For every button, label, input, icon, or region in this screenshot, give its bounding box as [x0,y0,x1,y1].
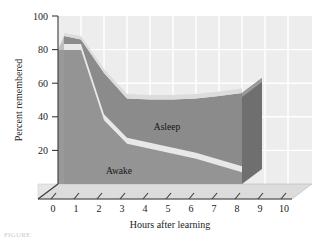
x-tick-label-8: 8 [235,203,240,214]
memory-retention-area-chart: 100 80 60 40 20 0 1 2 3 4 5 6 7 8 9 10 P… [0,0,333,238]
x-tick-label-2: 2 [97,203,102,214]
x-tick-label-5: 5 [166,203,171,214]
y-tick-label-100: 100 [33,11,48,22]
x-tick-label-1: 1 [74,203,79,214]
x-tick-label-6: 6 [189,203,194,214]
left-wall-shadow [58,36,64,184]
x-tick-label-0: 0 [51,203,56,214]
x-tick-label-9: 9 [258,203,263,214]
x-tick-label-7: 7 [212,203,217,214]
x-tick-label-4: 4 [143,203,148,214]
y-axis-title: Percent remembered [13,59,24,141]
figure-caption-partial: FIGURE [4,232,329,238]
awake-series-label: Awake [106,166,132,176]
y-tick-label-40: 40 [38,111,48,122]
x-tick-label-3: 3 [120,203,125,214]
y-tick-label-20: 20 [38,145,48,156]
figure-container: 100 80 60 40 20 0 1 2 3 4 5 6 7 8 9 10 P… [0,0,333,238]
y-axis-ticks [52,16,58,150]
chart-floor [38,184,312,199]
y-tick-label-60: 60 [38,78,48,89]
y-tick-label-80: 80 [38,44,48,55]
asleep-series-label: Asleep [154,122,181,132]
x-tick-label-10: 10 [279,203,289,214]
x-axis-title: Hours after learning [130,219,211,230]
